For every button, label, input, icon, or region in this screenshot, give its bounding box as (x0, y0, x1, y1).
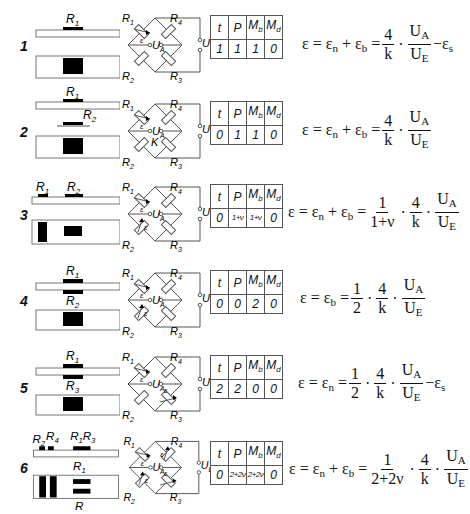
row-1: 1 R1 R1 ε UA R4 R2 R3 UE tPMbMd 1110 (0, 0, 462, 86)
value-mb: 1+ν (247, 209, 265, 228)
header-p: P (229, 16, 247, 40)
header-t: t (211, 271, 229, 295)
svg-text:R2: R2 (32, 433, 45, 448)
wheatstone-bridge: R1 ε ε UA R4 R2 R3 UE (120, 258, 210, 344)
svg-text:K: K (151, 136, 159, 148)
row-number: 1 (20, 38, 28, 54)
value-mb: 1 (247, 40, 265, 59)
svg-text:R4: R4 (170, 267, 182, 281)
svg-text:ε: ε (144, 309, 148, 318)
svg-text:R4: R4 (46, 430, 59, 445)
load-factor-table: tPMbMd 1110 (210, 15, 283, 59)
value-t: 2 (211, 380, 229, 399)
svg-text:R1: R1 (122, 351, 134, 365)
svg-text:R1: R1 (122, 12, 134, 26)
header-p: P (229, 102, 247, 126)
svg-text:R3: R3 (83, 430, 96, 445)
svg-text:R2: R2 (122, 156, 134, 170)
svg-text:UA: UA (152, 39, 165, 53)
header-t: t (211, 442, 229, 466)
header-md: Md (265, 356, 283, 380)
value-md: 0 (265, 126, 283, 145)
header-t: t (211, 185, 229, 209)
svg-text:R2: R2 (123, 491, 135, 505)
row-number: 3 (20, 207, 28, 223)
svg-text:UE: UE (202, 123, 210, 137)
header-p: P (229, 271, 247, 295)
value-mb: 2 (247, 295, 265, 314)
strain-formula: ε = εb = 12· 4k· UAUE (300, 276, 427, 321)
value-t: 0 (211, 466, 229, 485)
header-md: Md (265, 16, 283, 40)
load-factor-table: tPMbMd 01+ν1+ν0 (210, 184, 283, 228)
row-number: 2 (20, 124, 28, 140)
svg-text:R2: R2 (83, 108, 97, 124)
row-5: 5 R1 R3 R1 ε ε UA R4 R2 R3 UE (0, 340, 462, 426)
row-number: 4 (20, 293, 28, 309)
svg-text:ε: ε (140, 122, 144, 131)
svg-text:R1: R1 (66, 86, 79, 101)
row-number: 6 (20, 460, 28, 476)
value-md: 0 (265, 40, 283, 59)
value-mb: 1 (247, 126, 265, 145)
svg-text:R1: R1 (66, 264, 79, 280)
value-md: 0 (265, 209, 283, 228)
row-2: 2 R1 R2 R1 ε UA K R4 R2 R3 UE (0, 86, 462, 172)
load-factor-table: tPMbMd 2200 (210, 355, 283, 399)
header-mb: Mb (247, 185, 265, 209)
load-factor-table: tPMbMd 02+2ν2+2ν0 (210, 441, 283, 485)
header-p: P (229, 442, 247, 466)
value-md: 0 (265, 295, 283, 314)
strain-gauge-layout: R1 R2 (30, 258, 120, 344)
svg-text:UE: UE (202, 292, 210, 306)
strain-formula: ε = εn + εb = 11+ν· 4k· UAUE (288, 190, 461, 235)
svg-text:R1: R1 (122, 267, 134, 281)
row-3: 3 R1 R2 R1 ε ε UA R4 R2 R3 (0, 172, 462, 258)
svg-text:UA: UA (152, 294, 165, 308)
header-mb: Mb (247, 442, 265, 466)
value-t: 0 (211, 126, 229, 145)
header-md: Md (265, 271, 283, 295)
strain-gauge-layout: R1 R2 (30, 86, 120, 172)
svg-text:R2: R2 (122, 239, 134, 253)
header-t: t (211, 356, 229, 380)
svg-text:ε: ε (160, 450, 164, 459)
row-6: 6 R2 R4 R1 R3 R1 R (0, 425, 462, 514)
svg-text:UE: UE (202, 376, 210, 390)
svg-text:UA: UA (152, 461, 165, 475)
svg-text:R1: R1 (122, 181, 134, 195)
value-mb: 2+2ν (247, 466, 265, 485)
svg-text:ε: ε (144, 223, 148, 232)
load-factor-table: tPMbMd 0110 (210, 101, 283, 145)
svg-text:UE: UE (201, 459, 210, 473)
svg-text:R2: R2 (122, 409, 134, 423)
svg-text:R4: R4 (170, 12, 182, 26)
row-number: 5 (20, 380, 28, 396)
value-t: 0 (211, 209, 229, 228)
strain-formula: ε = εn = 12· 4k· UAUE −εs (298, 361, 445, 406)
strain-formula: ε = εn + εb = 4k· UAUE (302, 108, 433, 153)
svg-text:R2: R2 (67, 180, 81, 196)
svg-text:ε: ε (140, 291, 144, 300)
header-md: Md (265, 102, 283, 126)
svg-text:R4: R4 (170, 98, 182, 112)
wheatstone-bridge: R1 ε UA K R4 R2 R3 UE (120, 86, 210, 172)
header-t: t (211, 102, 229, 126)
value-md: 0 (265, 380, 283, 399)
svg-text:ε: ε (140, 36, 144, 45)
svg-text:R1: R1 (36, 180, 49, 196)
value-p: 2+2ν (229, 466, 247, 485)
value-p: 2 (229, 380, 247, 399)
strain-formula: ε = εn + εb = 12+2ν· 4k· UAUE (289, 447, 470, 492)
row-4: 4 R1 R2 R1 ε ε UA R4 R2 R3 UE (0, 258, 462, 344)
svg-text:R2: R2 (122, 70, 134, 84)
svg-text:UE: UE (202, 37, 210, 51)
svg-text:R: R (75, 500, 83, 511)
svg-text:UA: UA (152, 208, 165, 222)
svg-text:R2: R2 (66, 294, 80, 310)
wheatstone-bridge: R1 ε UA R4 R2 R3 UE (120, 0, 210, 86)
svg-text:R2: R2 (122, 325, 134, 339)
header-mb: Mb (247, 356, 265, 380)
svg-text:ε: ε (141, 459, 145, 468)
svg-text:ε: ε (140, 375, 144, 384)
